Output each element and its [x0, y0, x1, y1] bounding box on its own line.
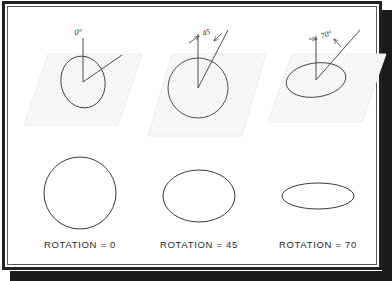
panel-70-caption: ROTATION = 70 — [279, 239, 357, 250]
panel-45-caption: ROTATION = 45 — [160, 239, 238, 250]
panel-45-ground-plane — [148, 54, 266, 136]
panel-70-dimension-tick-right — [334, 39, 341, 47]
panel-45-top: 45 — [148, 27, 266, 136]
panel-45-angle-label: 45 — [201, 27, 212, 38]
panel-70-ground-plane — [268, 54, 386, 122]
panel-45-dimension-tick-right — [214, 33, 222, 41]
panel-0-result-shape — [44, 157, 116, 229]
panel-70-result-shape — [282, 183, 354, 209]
panel-0-angle-label: 0° — [74, 28, 82, 37]
panel-45-result-shape — [163, 170, 235, 222]
panel-70-top: 70° — [268, 28, 386, 122]
panel-45-dimension-tick-left — [189, 36, 199, 43]
drawing-canvas: 0° 45 70° ROTATIO — [0, 0, 392, 281]
panel-0-caption: ROTATION = 0 — [44, 239, 116, 250]
panel-70-angle-label: 70° — [320, 28, 334, 40]
figure-root: 0° 45 70° ROTATIO — [0, 0, 392, 281]
panel-0-top: 0° — [24, 28, 142, 125]
